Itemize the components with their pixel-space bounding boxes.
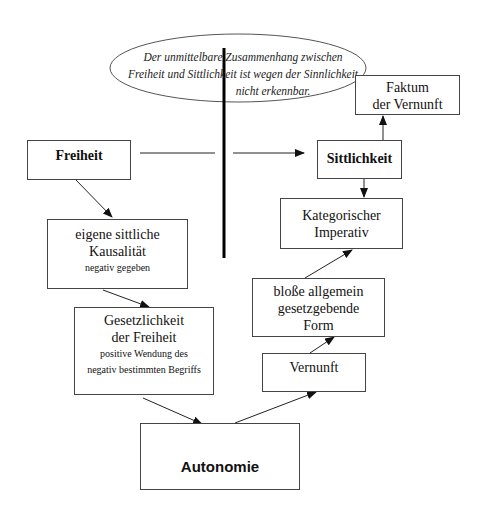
gesetzlichkeit-line-2: der Freiheit <box>75 329 213 346</box>
node-form: bloße allgemein gesetzgebende Form <box>252 278 385 337</box>
node-gesetzlichkeit: Gesetzlichkeit der Freiheit positive Wen… <box>74 307 214 395</box>
node-faktum: Faktum der Vernunft <box>355 75 460 115</box>
annotation-text: Der unmittelbare Zusammenhang zwischen F… <box>118 49 368 100</box>
freiheit-label: Freiheit <box>28 147 130 164</box>
kategorisch-line-1: Kategorischer <box>281 207 402 224</box>
vernunft-label: Vernunft <box>263 359 365 376</box>
arrow-to-form <box>310 337 334 353</box>
faktum-line-2: der Vernunft <box>356 96 459 113</box>
node-sittlichkeit: Sittlichkeit <box>317 140 402 179</box>
annotation-line-3: nicht erkennbar. <box>118 83 368 100</box>
kategorisch-line-2: Imperativ <box>281 224 402 241</box>
faktum-line-1: Faktum <box>356 79 459 96</box>
kausalitaet-line-2: Kausalität <box>48 243 187 260</box>
sittlichkeit-label: Sittlichkeit <box>318 150 401 167</box>
arrow-to-kategorisch-from-form <box>305 250 352 278</box>
annotation-line-1: Der unmittelbare Zusammenhang zwischen <box>118 49 368 66</box>
node-kategorisch: Kategorischer Imperativ <box>280 198 403 249</box>
arrow-to-autonomie <box>143 398 202 424</box>
arrow-to-kausalitaet <box>75 179 112 217</box>
node-vernunft: Vernunft <box>262 353 366 392</box>
gesetzlichkeit-note-1: positive Wendung des <box>75 346 213 362</box>
gesetzlichkeit-line-1: Gesetzlichkeit <box>75 312 213 329</box>
annotation-line-2: Freiheit und Sittlichkeit ist wegen der … <box>118 66 368 83</box>
kausalitaet-line-1: eigene sittliche <box>48 226 187 243</box>
node-freiheit: Freiheit <box>27 140 131 180</box>
form-line-2: gesetzgebende <box>253 300 384 317</box>
gesetzlichkeit-note-2: negativ bestimmten Begriffs <box>75 362 213 378</box>
autonomie-label: Autonomie <box>141 458 299 475</box>
form-line-1: bloße allgemein <box>253 283 384 300</box>
node-autonomie: Autonomie <box>140 423 300 490</box>
arrow-to-vernunft <box>235 392 316 423</box>
node-kausalitaet: eigene sittliche Kausalität negativ gege… <box>47 219 188 289</box>
form-line-3: Form <box>253 317 384 334</box>
kausalitaet-note: negativ gegeben <box>48 260 187 276</box>
arrow-to-gesetzlichkeit <box>103 290 149 307</box>
